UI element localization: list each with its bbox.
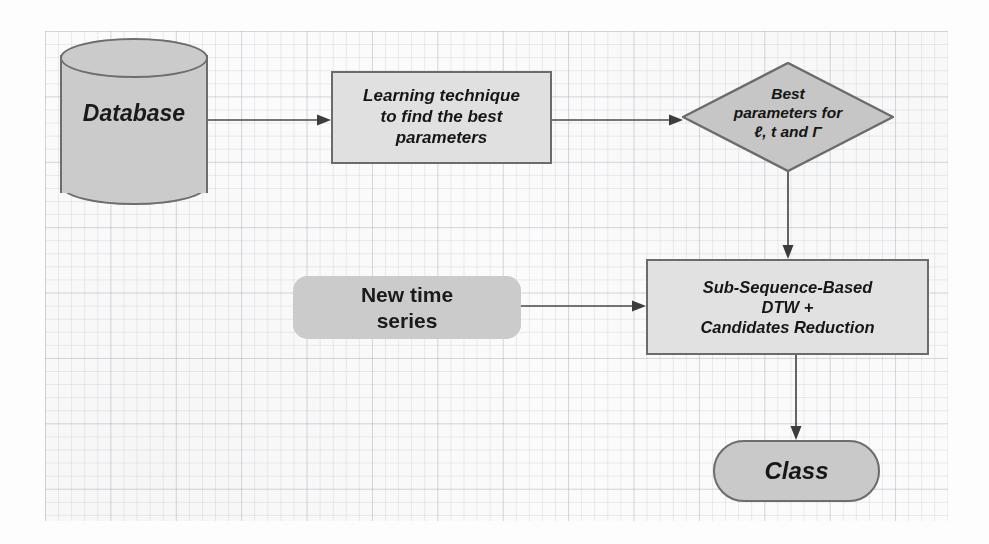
node-best-parameters-decision[interactable]: Best parameters for ℓ, t and Γ [682,62,894,172]
flowchart-canvas: Database Learning technique to find the … [0,0,989,544]
cylinder-top-ellipse [60,38,208,78]
node-database[interactable]: Database [60,41,208,206]
node-database-label: Database [60,99,208,127]
node-learning-technique-label: Learning technique to find the best para… [363,86,520,148]
node-learning-technique[interactable]: Learning technique to find the best para… [331,71,552,164]
node-new-time-series[interactable]: New time series [293,276,521,339]
node-class-output-label: Class [764,456,828,485]
node-best-parameters-decision-label: Best parameters for ℓ, t and Γ [706,84,870,142]
node-subsequence-dtw[interactable]: Sub-Sequence-Based DTW + Candidates Redu… [646,259,929,355]
node-class-output[interactable]: Class [713,440,880,502]
node-subsequence-dtw-label: Sub-Sequence-Based DTW + Candidates Redu… [700,277,874,337]
node-new-time-series-label: New time series [361,282,453,333]
